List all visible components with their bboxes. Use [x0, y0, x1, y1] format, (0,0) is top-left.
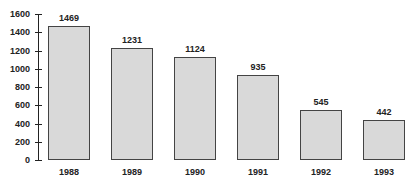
y-tick-label: 200	[0, 137, 30, 147]
bar-1989	[111, 48, 153, 160]
bar-value-label: 545	[300, 97, 342, 107]
x-tick-label: 1989	[111, 167, 153, 177]
y-tick	[35, 87, 42, 88]
bar-1993	[363, 120, 405, 160]
y-tick-label: 1400	[0, 27, 30, 37]
y-tick	[35, 69, 42, 70]
y-tick	[35, 14, 42, 15]
y-tick	[35, 124, 42, 125]
y-tick	[35, 51, 42, 52]
x-tick-label: 1990	[174, 167, 216, 177]
y-tick-label: 1600	[0, 9, 30, 19]
y-tick-label: 1000	[0, 64, 30, 74]
y-tick	[35, 105, 42, 106]
bar-1988	[48, 26, 90, 160]
y-tick	[35, 32, 42, 33]
bar-value-label: 935	[237, 62, 279, 72]
x-tick-label: 1988	[48, 167, 90, 177]
bar-1992	[300, 110, 342, 160]
y-tick-label: 0	[0, 155, 30, 165]
y-tick-label: 1200	[0, 46, 30, 56]
y-tick-label: 400	[0, 119, 30, 129]
bar-value-label: 442	[363, 107, 405, 117]
y-tick-label: 600	[0, 100, 30, 110]
x-tick-label: 1992	[300, 167, 342, 177]
x-tick-label: 1993	[363, 167, 405, 177]
bar-chart: 02004006008001000120014001600 1469198812…	[0, 0, 419, 187]
x-tick-label: 1991	[237, 167, 279, 177]
bar-value-label: 1469	[48, 13, 90, 23]
y-tick-label: 800	[0, 82, 30, 92]
bar-value-label: 1124	[174, 44, 216, 54]
bar-1991	[237, 75, 279, 160]
y-tick	[35, 160, 42, 161]
y-tick	[35, 142, 42, 143]
bar-1990	[174, 57, 216, 160]
bar-value-label: 1231	[111, 35, 153, 45]
